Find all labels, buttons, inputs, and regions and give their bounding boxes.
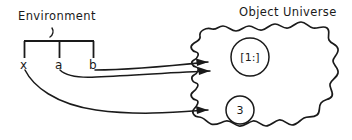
object-label-int: 3 (237, 104, 244, 117)
variable-label-x: x (20, 58, 27, 72)
environment-object-universe-diagram: Environment Object Universe x a b [1:] 3 (0, 0, 352, 140)
variable-label-b: b (89, 58, 97, 72)
object-universe-blob (191, 22, 338, 126)
variable-label-a: a (55, 58, 62, 72)
environment-leader-stroke (50, 28, 53, 37)
binding-arrow-b (95, 62, 208, 70)
object-universe-title: Object Universe (239, 5, 337, 19)
environment-title: Environment (18, 9, 96, 23)
object-label-list: [1:] (240, 51, 259, 64)
binding-arrow-a (60, 70, 210, 77)
